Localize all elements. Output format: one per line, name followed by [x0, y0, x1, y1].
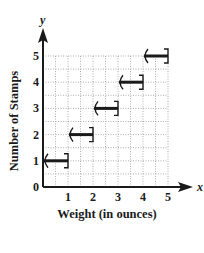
y-tick-labels: 012345	[33, 49, 39, 194]
x-axis-title: Weight (in ounces)	[57, 207, 156, 221]
x-tick-label: 5	[165, 190, 171, 204]
y-tick-label: 2	[33, 128, 39, 142]
grid	[43, 56, 168, 187]
x-tick-labels: 12345	[65, 190, 171, 204]
y-tick-label: 4	[33, 75, 39, 89]
step-segment	[144, 49, 168, 63]
x-tick-label: 1	[65, 190, 71, 204]
y-tick-label: 1	[33, 154, 39, 168]
step-segment	[94, 101, 118, 115]
step-segment	[44, 154, 68, 168]
axes	[38, 28, 193, 192]
y-axis-variable: y	[38, 13, 46, 27]
x-tick-label: 4	[140, 190, 146, 204]
y-axis-title: Number of Stamps	[7, 71, 21, 172]
x-tick-label: 2	[90, 190, 96, 204]
y-tick-label: 5	[33, 49, 39, 63]
y-tick-label: 3	[33, 101, 39, 115]
step-segment	[119, 75, 143, 89]
step-segment	[69, 128, 93, 142]
x-tick-label: 3	[115, 190, 121, 204]
y-tick-label: 0	[33, 180, 39, 194]
step-function-chart: x y 12345 012345 Weight (in ounces) Numb…	[0, 0, 204, 253]
step-segments	[44, 49, 168, 168]
x-axis-variable: x	[196, 180, 203, 194]
